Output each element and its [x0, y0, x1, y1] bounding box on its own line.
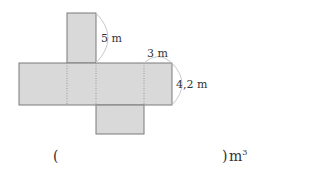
- unit-text: m: [229, 148, 242, 164]
- face-top: [67, 13, 96, 63]
- unit-exponent: 3: [242, 148, 247, 157]
- label-width: 3 m: [147, 47, 168, 60]
- face-bottom: [96, 105, 144, 134]
- label-height: 5 m: [101, 32, 122, 45]
- answer-close-paren: ): [222, 148, 227, 164]
- answer-unit: m3: [229, 148, 247, 164]
- answer-open-paren: (: [53, 148, 58, 164]
- label-depth: 4,2 m: [176, 78, 208, 91]
- answer-blank[interactable]: [62, 148, 220, 166]
